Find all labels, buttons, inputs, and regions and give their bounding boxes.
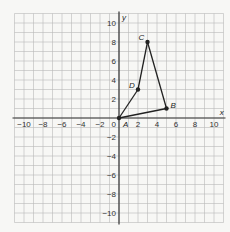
point-C [145,40,149,44]
segment-CD [138,42,148,90]
y-tick-label: 6 [112,57,117,66]
point-A [117,116,121,120]
segment-AB [119,109,167,119]
x-tick-label: −4 [76,120,86,129]
y-tick-label: 2 [112,95,117,104]
x-tick-label: −8 [38,120,48,129]
y-tick-label: −10 [102,209,116,218]
x-tick-label: 6 [174,120,179,129]
y-tick-label: −6 [107,171,117,180]
x-tick-label: 8 [193,120,198,129]
point-B [164,106,168,110]
coordinate-plane: xy−10−8−6−4−2246810108642−2−4−6−8−100ABC… [0,0,230,232]
point-label-D: D [129,81,135,90]
y-tick-label: −2 [107,133,117,142]
x-tick-label: −2 [95,120,105,129]
point-D [136,87,140,91]
y-tick-label: 10 [107,19,116,28]
y-tick-label: 4 [112,76,117,85]
x-tick-label: 4 [155,120,160,129]
y-tick-label: 8 [112,38,117,47]
x-tick-label: 10 [210,120,219,129]
point-label-C: C [139,33,145,42]
origin-label: 0 [112,120,117,129]
y-tick-label: −8 [107,190,117,199]
x-tick-label: 2 [136,120,141,129]
x-tick-label: −10 [17,120,31,129]
point-label-B: B [171,101,177,110]
y-axis-label: y [121,13,127,22]
y-tick-label: −4 [107,152,117,161]
x-tick-label: −6 [57,120,67,129]
point-label-A: A [122,120,128,129]
